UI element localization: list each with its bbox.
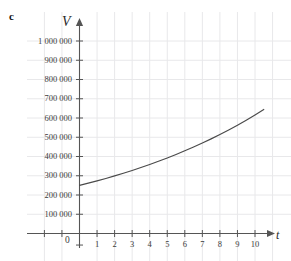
x-tick-label: 4 <box>143 240 157 249</box>
x-tick-label: 6 <box>178 240 192 249</box>
y-axis-title: V <box>62 15 71 29</box>
origin-label: 0 <box>65 236 70 246</box>
x-axis-tick-labels: 12345678910 <box>0 0 291 261</box>
x-tick-label: 7 <box>195 240 209 249</box>
x-tick-label: 2 <box>108 240 122 249</box>
x-tick-label: 10 <box>248 240 262 249</box>
x-tick-label: 8 <box>213 240 227 249</box>
x-tick-label: 9 <box>230 240 244 249</box>
x-tick-label: 3 <box>125 240 139 249</box>
figure-container: c 100 000200 000300 000400 000500 000600… <box>0 0 291 261</box>
x-tick-label: 5 <box>160 240 174 249</box>
x-tick-label: 1 <box>90 240 104 249</box>
x-axis-title: t <box>276 229 279 241</box>
